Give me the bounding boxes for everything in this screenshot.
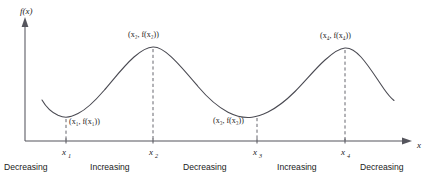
tick-label-x4-base: x [340, 147, 345, 157]
tick-label-x3: x 3 [252, 147, 262, 159]
x-axis-arrow-icon [402, 138, 412, 145]
tick-label-x3-base: x [252, 147, 257, 157]
tick-label-x2-sub: 2 [155, 152, 158, 159]
region-label-4: Increasing [277, 162, 317, 172]
region-label-3: Decreasing [183, 162, 227, 172]
tick-label-x3-sub: 3 [258, 152, 262, 159]
function-curve [42, 47, 394, 117]
y-axis-arrow-icon [22, 17, 29, 27]
tick-label-x1-base: x [61, 147, 66, 157]
region-label-2: Increasing [90, 162, 130, 172]
point-label-x1: (x₁, f(x₁)) [69, 117, 100, 126]
function-graph-svg: f(x) x x 1 x 2 x 3 x 4 (x₁, f [0, 0, 430, 174]
point-label-x4: (x₄, f(x₄)) [320, 31, 351, 40]
figure-container: f(x) x x 1 x 2 x 3 x 4 (x₁, f [0, 0, 430, 174]
x-axis-label: x [416, 140, 421, 150]
tick-label-x1-sub: 1 [68, 152, 71, 159]
tick-label-x2: x 2 [148, 147, 158, 159]
x-axis [25, 138, 412, 145]
y-axis [22, 17, 29, 141]
tick-label-x2-base: x [148, 147, 153, 157]
region-label-5: Decreasing [360, 162, 404, 172]
point-label-x3: (x₃, f(x₃)) [213, 116, 244, 125]
y-axis-label: f(x) [20, 6, 33, 16]
region-label-1: Decreasing [4, 162, 48, 172]
tick-label-x4: x 4 [340, 147, 350, 159]
point-label-x2: (x₂, f(x₂)) [128, 30, 159, 39]
tick-label-x1: x 1 [61, 147, 71, 159]
tick-label-x4-sub: 4 [347, 152, 350, 159]
